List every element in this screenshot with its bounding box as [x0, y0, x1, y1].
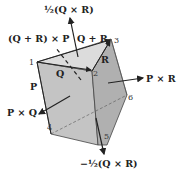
label-neg-half-qxr: −½(Q × R) [80, 158, 138, 169]
label-p-x-r: P × R [146, 73, 176, 84]
label-q-plus-r-x-p: (Q + R) × P [8, 33, 69, 44]
diagram-svg: ½(Q × R) (Q + R) × P Q + R Q R P P × R P… [0, 0, 181, 176]
prism-vector-diagram: ½(Q × R) (Q + R) × P Q + R Q R P P × R P… [0, 0, 181, 176]
vertex-6: 6 [128, 93, 133, 102]
vertex-4: 4 [47, 123, 52, 132]
label-p: P [30, 81, 37, 92]
vertex-1: 1 [29, 58, 34, 67]
label-half-qxr: ½(Q × R) [44, 4, 94, 15]
label-q-plus-r: Q + R [77, 33, 108, 44]
label-r: R [101, 54, 109, 65]
front-face [37, 62, 98, 145]
label-q: Q [56, 68, 64, 79]
vertex-5: 5 [104, 132, 109, 141]
label-p-x-q: P × Q [7, 107, 37, 118]
vertex-3: 3 [114, 36, 119, 45]
vertex-2: 2 [93, 69, 98, 78]
